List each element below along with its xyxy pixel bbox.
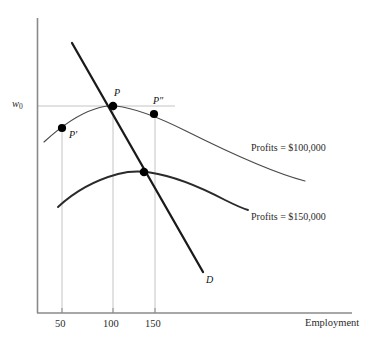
point-p <box>109 102 118 111</box>
curve-label-isoprofit-upper: Profits = $100,000 <box>251 143 326 153</box>
curve-label-isoprofit-lower: Profits = $150,000 <box>251 212 326 222</box>
point-label-p-prime: P' <box>69 130 77 140</box>
economics-isoprofit-diagram: w0 P P' P″ D Profits = $100,000 Profits … <box>0 0 366 345</box>
point-p-double-prime <box>150 110 158 118</box>
guide-lines <box>37 106 175 313</box>
point-demand-lower-isoprofit-intersection <box>140 168 149 177</box>
x-tick-label-150: 150 <box>145 319 161 330</box>
labor-demand-curve <box>72 43 203 272</box>
curve-label-demand: D <box>206 275 213 285</box>
wage-symbol: w <box>12 98 19 109</box>
plot-canvas <box>0 0 366 345</box>
wage-subscript: 0 <box>19 102 23 111</box>
point-p-prime <box>58 124 66 132</box>
x-axis-title: Employment <box>305 318 359 329</box>
x-tick-label-100: 100 <box>103 319 119 330</box>
point-label-p: P <box>114 88 120 98</box>
y-axis-tick-label-w0: w0 <box>12 99 23 111</box>
isoprofit-curve-lower <box>58 172 248 210</box>
point-label-p-double-prime: P″ <box>153 96 163 106</box>
x-tick-label-50: 50 <box>55 319 66 330</box>
